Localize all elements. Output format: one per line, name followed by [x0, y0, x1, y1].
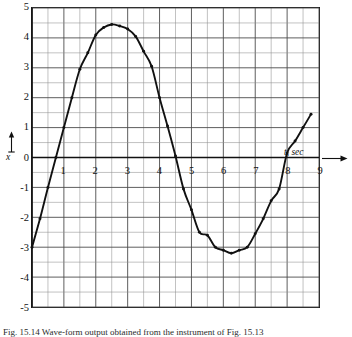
x-tick-label: 2: [93, 166, 98, 176]
x-tick-label: 3: [125, 166, 130, 176]
x-tick-label: 5: [189, 166, 194, 176]
x-axis-tick-labels: 123456789: [31, 166, 320, 180]
plot-area: [31, 7, 320, 308]
x-tick-label: 9: [317, 166, 322, 176]
x-tick-label: 6: [221, 166, 226, 176]
arrow-right-icon: [322, 153, 348, 164]
x-tick-label: 8: [285, 166, 290, 176]
arrow-up-icon: [7, 131, 16, 153]
data-series-curve: [32, 8, 319, 307]
y-tick-label: -3: [3, 243, 29, 253]
y-tick-label: 5: [3, 2, 29, 12]
y-tick-label: 3: [3, 62, 29, 72]
y-axis-tick-labels: 543210-1-2-3-4-5: [0, 7, 29, 308]
y-tick-label: 2: [3, 92, 29, 102]
y-tick-label: -5: [3, 303, 29, 313]
x-axis-title: t, sec: [284, 147, 304, 157]
y-axis-title: x: [6, 152, 10, 162]
x-tick-label: 7: [253, 166, 258, 176]
y-tick-label: 4: [3, 32, 29, 42]
figure-caption: Fig. 15.14 Wave-form output obtained fro…: [3, 327, 349, 337]
y-tick-label: -4: [3, 273, 29, 283]
x-tick-label: 4: [157, 166, 162, 176]
x-tick-label: 1: [60, 166, 65, 176]
y-tick-label: -1: [3, 183, 29, 193]
y-tick-label: -2: [3, 213, 29, 223]
